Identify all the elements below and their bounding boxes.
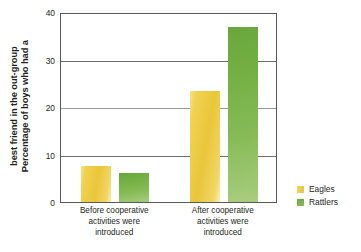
y-axis-tick-labels: 010203040 [38, 0, 57, 212]
y-axis-tick-0: 0 [50, 198, 55, 208]
x-axis-category-line: Before cooperative [60, 206, 169, 217]
y-axis-title-line-1: Percentage of boys who had a [19, 40, 30, 172]
x-axis-category-line: introduced [169, 228, 278, 239]
plot-area [60, 13, 277, 203]
bar-eagles-1 [190, 91, 220, 202]
x-axis-category-1: After cooperativeactivities wereintroduc… [169, 206, 278, 239]
x-axis-category-line: introduced [60, 228, 169, 239]
bar-rattlers-1 [228, 27, 258, 202]
legend-item-rattlers[interactable]: Rattlers [297, 196, 359, 208]
y-axis-title: Percentage of boys who had a best friend… [0, 0, 38, 212]
x-axis-category-line: After cooperative [169, 206, 278, 217]
legend-swatch-icon [297, 199, 304, 206]
y-axis-tick-20: 20 [46, 103, 55, 113]
y-axis-title-line-2: best friend in the out-group [8, 46, 19, 166]
bar-rattlers-0 [119, 173, 149, 202]
y-axis-tick-40: 40 [46, 8, 55, 18]
y-axis-tick-30: 30 [46, 56, 55, 66]
x-axis-category-line: activities were [60, 217, 169, 228]
y-axis-title-rotated: Percentage of boys who had a best friend… [8, 40, 30, 172]
legend-swatch-icon [297, 186, 304, 193]
legend-label: Eagles [309, 184, 335, 194]
legend-item-eagles[interactable]: Eagles [297, 183, 359, 195]
bar-eagles-0 [81, 166, 111, 202]
x-axis-category-0: Before cooperativeactivities wereintrodu… [60, 206, 169, 239]
legend-label: Rattlers [309, 197, 338, 207]
x-axis-category-line: activities were [169, 217, 278, 228]
x-axis-tick-labels: Before cooperativeactivities wereintrodu… [60, 206, 277, 252]
legend: EaglesRattlers [297, 183, 359, 209]
y-axis-tick-10: 10 [46, 151, 55, 161]
